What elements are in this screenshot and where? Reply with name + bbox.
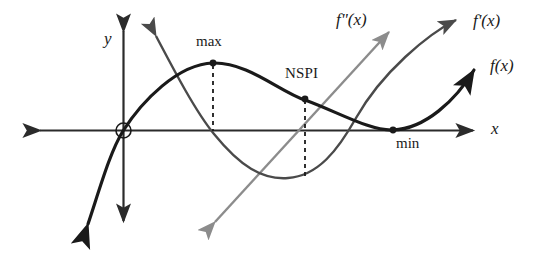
y-axis-label: y (104, 30, 112, 47)
f-label: f(x) (490, 57, 514, 74)
min-label: min (396, 136, 419, 151)
derivative-diagram: y x max NSPI min f"(x) f'(x) f(x) (0, 0, 546, 254)
nspi-label: NSPI (285, 66, 318, 81)
max-label: max (196, 34, 222, 49)
x-axis-label: x (491, 120, 499, 137)
f-double-prime-label: f"(x) (336, 11, 367, 28)
nspi-point-dot (302, 96, 309, 103)
max-point-dot (210, 60, 217, 67)
f-double-prime-curve (215, 32, 389, 222)
f-prime-label: f'(x) (473, 12, 500, 29)
min-point-dot (390, 127, 397, 134)
diagram-canvas (0, 0, 546, 254)
